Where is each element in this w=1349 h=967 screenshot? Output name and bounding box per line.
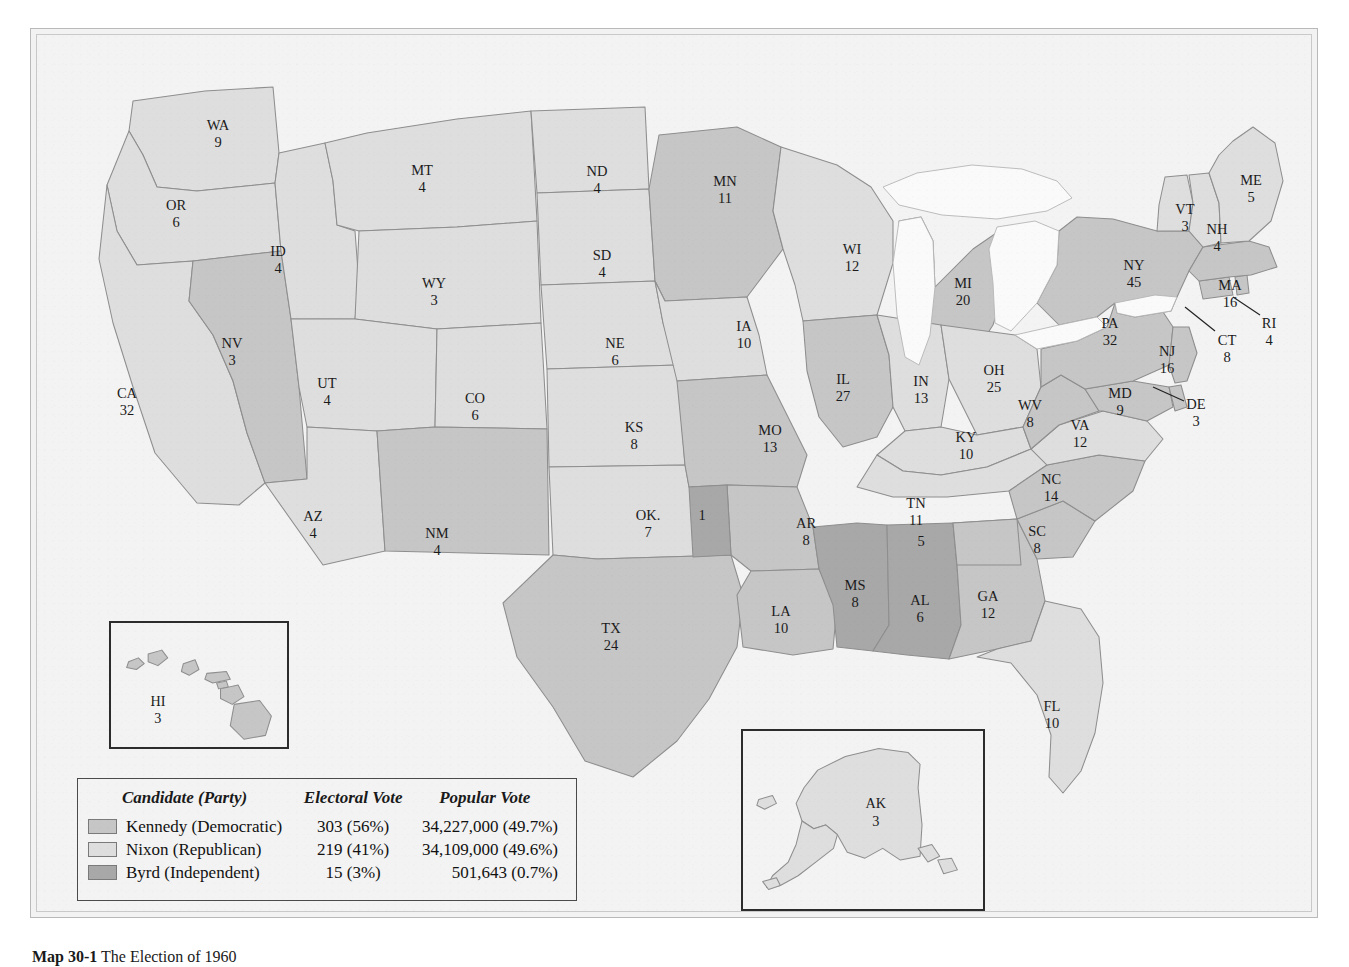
state-code-text: MA [1218,277,1242,293]
hawaii-island-shape-2[interactable] [148,650,168,666]
state-code-text: ND [587,163,608,179]
alaska-shape-3[interactable] [757,796,777,810]
state-code-text: NJ [1159,343,1175,359]
state-code-text: FL [1044,698,1061,714]
state-code-text: MN [713,173,737,189]
state-ev-text: 6 [611,352,618,368]
hawaii-island-shape-6[interactable] [221,685,244,704]
district-label-ok-byrd-sliver: 1 [698,507,705,523]
state-shape-ne[interactable] [541,281,677,369]
state-shape-mo[interactable] [677,375,807,487]
state-ev-text: 6 [471,407,478,423]
legend-popular-text: 501,643 (0.7%) [408,861,562,884]
state-code-text: DE [1186,396,1205,412]
state-ev-text: 3 [430,292,437,308]
state-ev-text: 4 [309,525,317,541]
state-code-text: CO [465,390,485,406]
state-code-text: AL [910,592,929,608]
legend-swatch-nixon [88,842,117,857]
state-ev-text: 24 [604,637,619,653]
state-code-text: IL [836,371,850,387]
state-label-nj: NJ16 [1159,343,1175,376]
state-code-text: NV [222,335,243,351]
legend-row: Nixon (Republican)219 (41%)34,109,000 (4… [88,838,562,861]
alaska-shape-6[interactable] [938,858,958,874]
state-shape-sd[interactable] [537,189,655,285]
state-ev-text: 4 [1213,238,1221,254]
state-label-in: IN13 [913,373,929,406]
state-ev-text: 25 [987,379,1002,395]
state-ev-text: 11 [909,512,923,528]
alaska-inset: AK 3 [741,729,985,911]
state-code-text: OR [166,197,186,213]
state-code-text: CA [117,385,138,401]
district-label-al-kennedy: 5 [917,533,924,549]
state-ev-text: 8 [851,594,858,610]
state-ev-text: 16 [1160,360,1175,376]
state-code-text: ID [270,243,285,259]
legend-candidate-text: Kennedy (Democratic) [122,815,299,838]
state-ev-text: 8 [1033,540,1040,556]
state-code-text: GA [978,588,999,604]
state-code-text: MO [758,422,781,438]
state-ev-text: 20 [956,292,971,308]
state-shape-co[interactable] [435,323,547,429]
state-shape-nm[interactable] [377,427,549,555]
state-code-text: PA [1101,315,1119,331]
state-ev-text: 4 [323,392,331,408]
legend-header-popular: Popular Vote [408,788,562,815]
legend-electoral-text: 15 (3%) [299,861,408,884]
state-shape-ut[interactable] [291,319,437,431]
state-label-ia: IA10 [736,318,752,351]
state-ev-text: 16 [1223,294,1238,310]
hawaii-label-ev: 3 [154,710,161,726]
state-label-wi: WI12 [843,241,862,274]
state-ev-text: 8 [630,436,637,452]
legend-row: Kennedy (Democratic)303 (56%)34,227,000 … [88,815,562,838]
legend-swatch-cell [88,815,122,838]
legend-electoral-text: 303 (56%) [299,815,408,838]
alaska-label-code: AK [865,795,886,811]
district-shape-al-kennedy[interactable] [953,519,1021,565]
state-code-text: IN [913,373,929,389]
state-code-text: MI [954,275,972,291]
state-ev-text: 10 [1045,715,1060,731]
legend-body: Kennedy (Democratic)303 (56%)34,227,000 … [88,815,562,884]
state-ev-text: 6 [916,609,923,625]
hawaii-island-shape-7[interactable] [230,701,271,740]
state-code-text: MS [845,577,866,593]
caption-text: The Election of 1960 [101,948,237,965]
state-shape-wy[interactable] [355,221,541,329]
alaska-inset-svg: AK 3 [743,731,983,909]
state-code-text: NH [1207,221,1228,237]
state-shape-nd[interactable] [531,107,649,193]
state-ev-text: 13 [763,439,778,455]
state-label-ca: CA32 [117,385,138,418]
state-code-text: KS [625,419,644,435]
legend-candidate-text: Nixon (Republican) [122,838,299,861]
state-ev-text: 5 [1247,189,1254,205]
alaska-shape-2[interactable] [767,821,838,888]
state-shape-ks[interactable] [547,365,685,467]
state-ev-text: 45 [1127,274,1142,290]
hawaii-island-shape-3[interactable] [181,660,199,676]
state-ev-text: 8 [1223,349,1230,365]
alaska-label-ev: 3 [872,813,879,829]
alaska-shape-4[interactable] [763,878,781,890]
hawaii-island-shape-1[interactable] [127,658,145,670]
state-shape-wi[interactable] [773,147,893,321]
state-label-pa: PA32 [1101,315,1119,348]
state-shape-tx[interactable] [503,555,743,777]
state-code-text: LA [771,603,791,619]
district-shape-ok-byrd-sliver[interactable] [689,485,731,557]
state-ev-text: 13 [914,390,929,406]
state-label-ri: RI4 [1262,315,1277,348]
state-ev-text: 32 [120,402,135,418]
state-code-text: NY [1124,257,1145,273]
state-shape-mn[interactable] [649,127,783,301]
state-ev-text: 4 [433,542,441,558]
alaska-shape-5[interactable] [918,844,940,862]
state-code-text: NC [1041,471,1061,487]
state-ev-text: 10 [774,620,789,636]
legend-header-row: Candidate (Party) Electoral Vote Popular… [88,788,562,815]
